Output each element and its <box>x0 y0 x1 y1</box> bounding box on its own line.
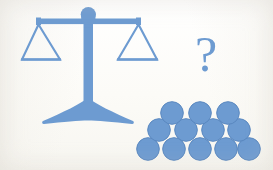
scale-post <box>84 17 94 105</box>
image-canvas: ? <box>0 0 273 170</box>
left-pan <box>21 25 61 61</box>
fulcrum-neck <box>81 13 95 24</box>
coin <box>189 102 212 125</box>
coin <box>161 102 184 125</box>
coin <box>215 138 238 161</box>
question-mark: ? <box>185 26 227 82</box>
coin <box>189 138 212 161</box>
coin <box>217 102 240 125</box>
coin <box>163 138 186 161</box>
coin-pyramid <box>137 102 261 161</box>
illustration <box>0 0 273 170</box>
right-pan <box>117 25 158 61</box>
coin-row-top <box>161 102 240 125</box>
balance-scale <box>21 7 158 124</box>
